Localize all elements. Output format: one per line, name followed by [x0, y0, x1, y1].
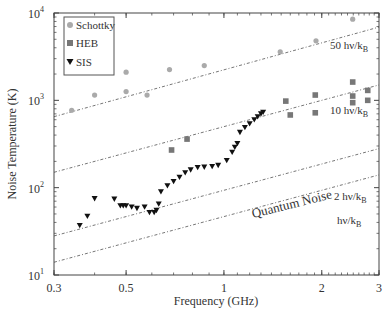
heb-point	[287, 112, 293, 118]
sis-point	[142, 205, 148, 210]
legend-sis-label: SIS	[76, 56, 92, 68]
sis-point	[242, 125, 248, 130]
sis-point	[201, 165, 207, 170]
schottky-point	[350, 17, 355, 22]
schottky-point	[167, 67, 172, 72]
x-tick-label: 1	[221, 281, 227, 295]
sis-point	[232, 145, 238, 150]
schottky-point	[69, 108, 74, 113]
sis-point	[247, 121, 253, 126]
sis-point	[111, 197, 117, 202]
y-axis-label: Noise Temperature (K)	[5, 89, 19, 200]
x-tick-label: 3	[376, 281, 382, 295]
heb-point	[350, 79, 356, 85]
sis-point	[188, 167, 194, 172]
legend-schottky-label: Schottky	[76, 19, 116, 31]
sis-point	[164, 183, 170, 188]
heb-point	[169, 147, 175, 153]
sis-point	[171, 179, 177, 184]
x-tick-label: 0.5	[119, 281, 134, 295]
heb-point	[283, 98, 289, 104]
schottky-point	[124, 70, 129, 75]
reference-line-label: 10 hν/kB	[330, 104, 368, 119]
x-axis-label: Frequency (GHz)	[174, 294, 258, 308]
legend: Schottky HEB SIS	[64, 17, 116, 75]
x-tick-label: 2	[319, 281, 325, 295]
sis-point	[77, 223, 83, 228]
reference-line-label: hν/kB	[337, 214, 361, 229]
y-tick-label: 101	[28, 267, 44, 283]
sis-point	[229, 150, 235, 155]
sis-point	[129, 205, 135, 210]
sis-point	[158, 189, 164, 194]
sis-point	[224, 158, 230, 163]
sis-point	[182, 170, 188, 175]
sis-point	[237, 130, 243, 135]
sis-point	[209, 164, 215, 169]
y-tick-label: 102	[28, 180, 44, 196]
schottky-point	[144, 92, 149, 97]
schottky-point	[278, 49, 283, 54]
legend-heb-marker-icon	[67, 40, 73, 46]
y-tick-label: 104	[28, 5, 44, 21]
x-tick-label: 0.3	[47, 281, 62, 295]
sis-point	[84, 214, 90, 219]
schottky-point	[92, 92, 97, 97]
heb-point	[184, 136, 190, 142]
sis-point	[215, 163, 221, 168]
reference-line-labels: 50 hν/kB10 hν/kB2 hν/kBhν/kB	[330, 39, 368, 229]
heb-point	[312, 110, 318, 116]
schottky-point	[313, 38, 318, 43]
sis-point	[146, 210, 152, 215]
sis-point	[156, 202, 162, 207]
quantum-noise-annotation: Quantum Noise	[250, 186, 333, 220]
sis-point	[134, 206, 140, 211]
reference-line-label: 50 hν/kB	[330, 39, 368, 54]
y-tick-label: 103	[28, 92, 44, 108]
heb-point	[312, 92, 318, 98]
reference-line	[54, 85, 379, 172]
heb-point	[350, 93, 356, 99]
sis-point	[195, 165, 201, 170]
sis-point	[177, 175, 183, 180]
sis-point	[92, 196, 98, 201]
heb-point	[365, 88, 371, 94]
schottky-point	[124, 89, 129, 94]
noise-temperature-chart: 0.30.5123 101102103104 50 hν/kB10 hν/kB2…	[0, 0, 392, 325]
reference-line	[54, 175, 379, 262]
schottky-point	[202, 63, 207, 68]
reference-line-label: 2 hν/kB	[334, 190, 367, 205]
legend-schottky-marker-icon	[67, 22, 73, 28]
heb-point	[365, 98, 371, 104]
legend-heb-label: HEB	[76, 37, 98, 49]
